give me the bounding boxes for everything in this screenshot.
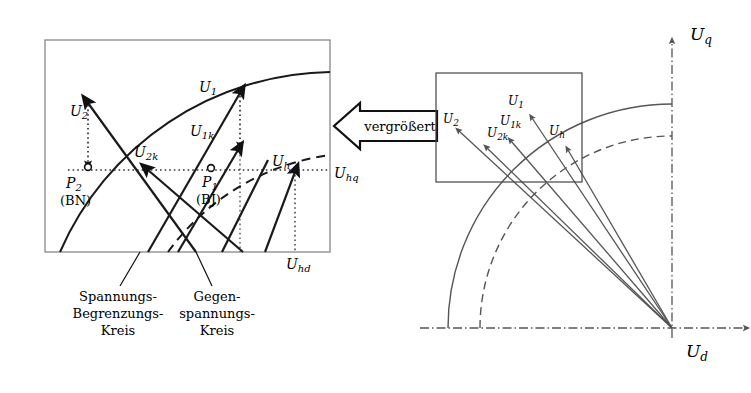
- label-p2-note: (BN): [60, 193, 91, 208]
- label-u1: U1: [199, 79, 217, 97]
- right-vector-u2: [459, 131, 672, 328]
- figure-canvas: U2 U2k U1 U1k Uh P2 (BN) P1 (BJ) Uhq Uhd…: [0, 0, 751, 393]
- callout-label: vergrößert: [363, 119, 436, 134]
- label-uh: Uh: [272, 153, 290, 171]
- label-p2: P2: [65, 175, 82, 193]
- vector-uh: [265, 172, 295, 252]
- point-p2: [85, 164, 92, 171]
- leader-counter-voltage: [196, 252, 212, 286]
- vector-u1: [148, 93, 240, 252]
- right-vector-uh: [568, 150, 672, 328]
- left-panel-frame: [45, 40, 330, 252]
- label-p1-note: (BJ): [196, 192, 221, 207]
- right-vector-u1: [532, 118, 672, 328]
- caption-counter-voltage-line2: spannungs-: [179, 306, 255, 321]
- label-u1k: U1k: [190, 123, 214, 141]
- diagram-svg: U2 U2k U1 U1k Uh P2 (BN) P1 (BJ) Uhq Uhd…: [0, 0, 751, 393]
- label-uq: Uq: [690, 24, 712, 47]
- right-vector-u2k: [487, 148, 672, 328]
- vector-guide-ray: [222, 160, 268, 252]
- right-label-u1k: U1k: [500, 114, 521, 130]
- label-ud: Ud: [686, 341, 708, 364]
- caption-voltage-limit-line1: Spannungs-: [79, 289, 157, 304]
- right-label-u1: U1: [508, 94, 524, 110]
- right-label-uh: Uh: [549, 124, 565, 140]
- label-u2: U2: [70, 103, 88, 121]
- caption-voltage-limit-line3: Kreis: [101, 323, 135, 338]
- point-p1: [208, 165, 215, 172]
- caption-counter-voltage-line1: Gegen-: [194, 289, 241, 304]
- label-uhq: Uhq: [334, 165, 359, 183]
- right-label-u2: U2: [443, 112, 459, 128]
- right-vector-u1k: [511, 141, 672, 328]
- vector-u2: [88, 103, 196, 252]
- caption-voltage-limit-line2: Begrenzungs-: [73, 306, 164, 321]
- label-uhd: Uhd: [286, 256, 311, 274]
- label-p1: P1: [201, 174, 218, 192]
- leader-voltage-limit: [120, 252, 140, 286]
- right-label-u2k: U2k: [487, 126, 508, 142]
- label-u2k: U2k: [134, 144, 158, 162]
- caption-counter-voltage-line3: Kreis: [200, 323, 234, 338]
